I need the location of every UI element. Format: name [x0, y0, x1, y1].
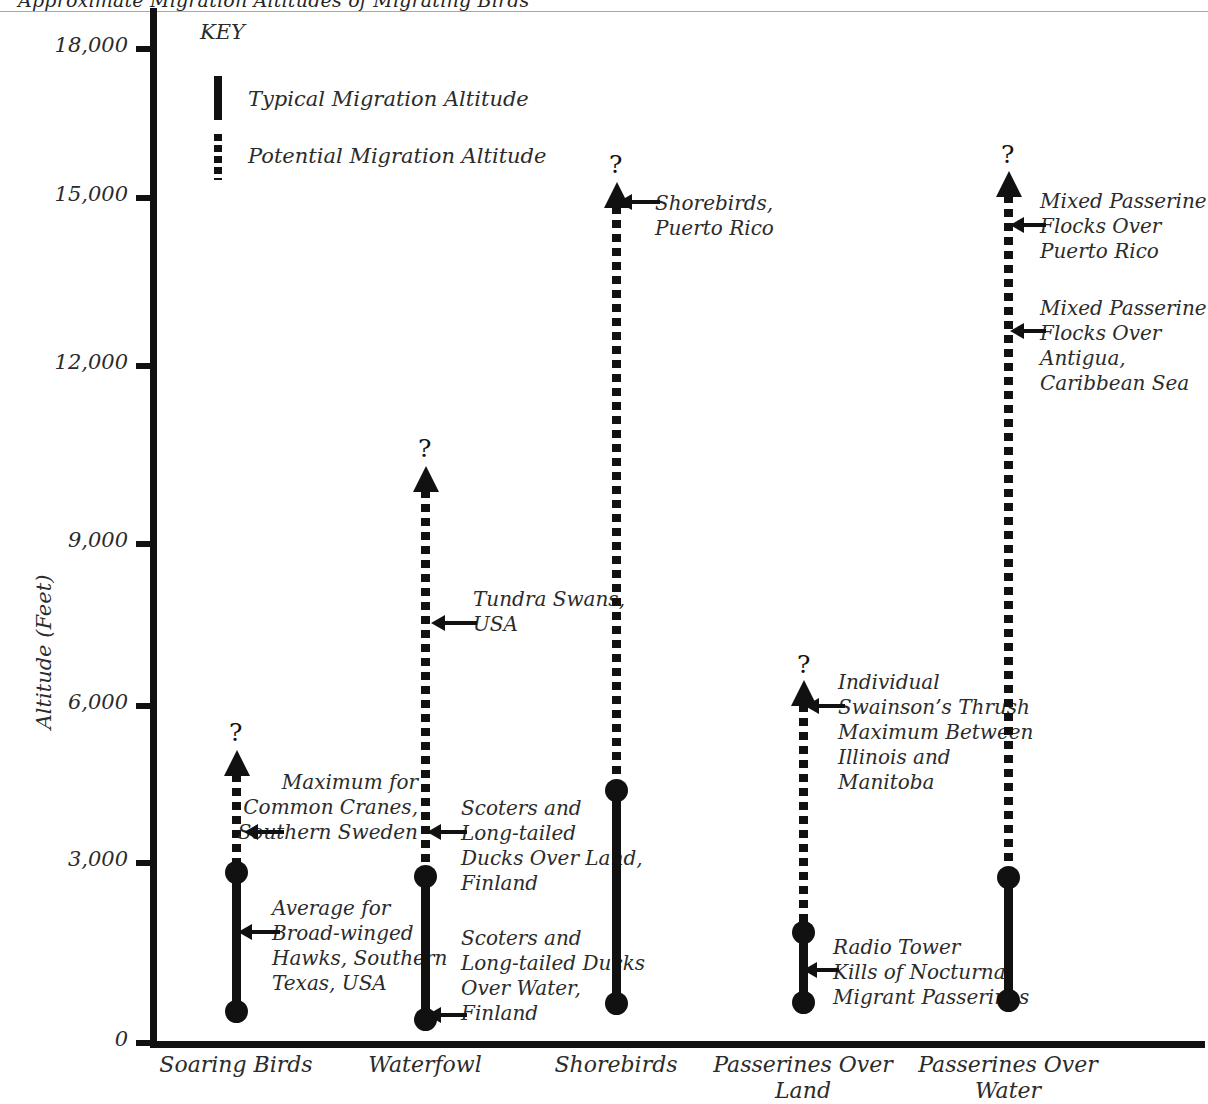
- annotation-arrow-tundra-swans: [431, 613, 477, 633]
- y-tick-15000: [136, 195, 152, 201]
- y-axis-line: [150, 8, 157, 1046]
- migration-altitude-chart: Approximate Migration Altitudes of Migra…: [0, 0, 1208, 1104]
- chart-title-remnant: Approximate Migration Altitudes of Migra…: [0, 0, 1208, 11]
- annotation-arrow-radio-tower: [803, 960, 839, 980]
- annotation-arrow-broad-winged-hawks: [238, 922, 280, 942]
- uncertainty-marker-shorebirds: ?: [609, 150, 622, 179]
- uncertainty-marker-passerines-land: ?: [797, 650, 810, 679]
- annotation-tundra-swans: Tundra Swans, USA: [473, 587, 673, 637]
- x-label-passerines-over-water: Passerines Over Water: [903, 1052, 1113, 1104]
- typical-range-soaring: [232, 872, 241, 1012]
- uncertainty-marker-waterfowl: ?: [418, 434, 431, 463]
- typical-range-shorebirds: [612, 790, 621, 1004]
- potential-range-passerines-water: [1004, 195, 1013, 877]
- key-label-potential: Potential Migration Altitude: [248, 144, 546, 168]
- y-tick-9000: [136, 541, 152, 547]
- y-tick-3000: [136, 860, 152, 866]
- arrowhead-waterfowl: [413, 466, 439, 492]
- annotation-arrow-swainsons-thrush: [805, 696, 845, 716]
- y-tick-label-3000: 3,000: [68, 847, 128, 871]
- typical-range-passerines-water: [1004, 877, 1013, 1000]
- y-tick-18000: [136, 46, 152, 52]
- annotation-shorebirds-puerto-rico: Shorebirds, Puerto Rico: [655, 191, 865, 241]
- key-heading: KEY: [200, 20, 245, 44]
- y-tick-label-6000: 6,000: [68, 690, 128, 714]
- potential-range-passerines-land: [799, 704, 808, 926]
- uncertainty-marker-passerines-water: ?: [1001, 140, 1014, 169]
- x-label-passerines-over-land: Passerines Over Land: [698, 1052, 908, 1104]
- annotation-mixed-passerine-puerto-rico: Mixed Passerine Flocks Over Puerto Rico: [1040, 189, 1208, 264]
- annotation-arrow-common-cranes: [244, 822, 284, 842]
- annotation-mixed-passerine-antigua: Mixed Passerine Flocks Over Antigua, Car…: [1040, 296, 1208, 396]
- annotation-scoters-over-water: Scoters and Long-tailed Ducks Over Water…: [461, 926, 676, 1026]
- x-label-waterfowl: Waterfowl: [320, 1052, 530, 1078]
- y-tick-6000: [136, 703, 152, 709]
- uncertainty-marker-soaring: ?: [229, 718, 242, 747]
- annotation-arrow-shorebirds-puerto-rico: [618, 192, 660, 212]
- x-axis-line: [150, 1041, 1205, 1048]
- typical-low-dot-shorebirds: [605, 992, 628, 1015]
- y-tick-label-9000: 9,000: [68, 528, 128, 552]
- key-label-typical: Typical Migration Altitude: [248, 87, 529, 111]
- annotation-arrow-mixed-passerine-antigua: [1010, 321, 1046, 341]
- annotation-arrow-scoters-over-land: [427, 822, 467, 842]
- annotation-arrow-scoters-over-water: [427, 1005, 467, 1025]
- key-solid-swatch-icon: [214, 76, 222, 120]
- typical-range-waterfowl: [421, 876, 430, 1020]
- annotation-scoters-over-land: Scoters and Long-tailed Ducks Over Land,…: [461, 796, 671, 896]
- key-dotted-swatch-icon: [214, 134, 222, 180]
- x-label-shorebirds: Shorebirds: [511, 1052, 721, 1078]
- annotation-arrow-mixed-passerine-puerto-rico: [1010, 215, 1046, 235]
- typical-low-dot-passerines-land: [792, 991, 815, 1014]
- y-tick-12000: [136, 363, 152, 369]
- y-axis-title: Altitude (Feet): [32, 542, 56, 762]
- y-tick-label-18000: 18,000: [55, 33, 128, 57]
- typical-low-dot-passerines-water: [997, 989, 1020, 1012]
- y-tick-label-12000: 12,000: [55, 350, 128, 374]
- x-label-soaring-birds: Soaring Birds: [131, 1052, 341, 1078]
- y-tick-label-15000: 15,000: [55, 182, 128, 206]
- y-tick-0: [136, 1040, 152, 1046]
- typical-low-dot-soaring: [225, 1000, 248, 1023]
- annotation-common-cranes: Maximum for Common Cranes, Southern Swed…: [40, 770, 418, 845]
- top-rule-divider: [0, 11, 1208, 12]
- potential-range-shorebirds: [612, 206, 621, 790]
- annotation-swainsons-thrush: Individual Swainson’s Thrush Maximum Bet…: [838, 670, 1073, 795]
- arrowhead-passerines-water: [996, 171, 1022, 197]
- y-tick-label-0: 0: [115, 1027, 128, 1051]
